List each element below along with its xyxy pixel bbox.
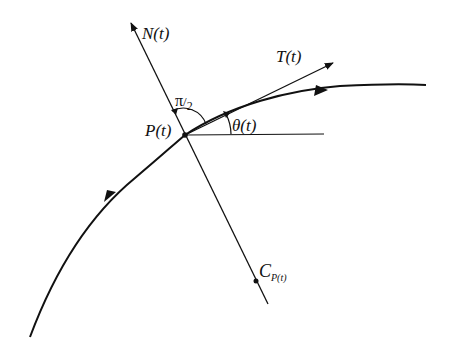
point-label: P(t) (145, 122, 171, 139)
center-main: C (259, 261, 271, 281)
right-angle-pi: π (175, 92, 183, 109)
right-angle-label: π/2 (175, 92, 193, 112)
frenet-diagram (0, 0, 452, 357)
tangent-label: T(t) (276, 48, 302, 65)
normal-label: N(t) (142, 25, 169, 42)
theta-label: θ(t) (232, 117, 256, 134)
center-sub: P(t) (271, 272, 287, 283)
center-of-curvature-label: CP(t) (259, 262, 287, 283)
right-angle-denominator: 2 (187, 99, 193, 113)
point-P (182, 132, 188, 138)
center-of-curvature-point (254, 279, 259, 284)
tangent-vector (185, 63, 333, 135)
curve (30, 84, 426, 337)
